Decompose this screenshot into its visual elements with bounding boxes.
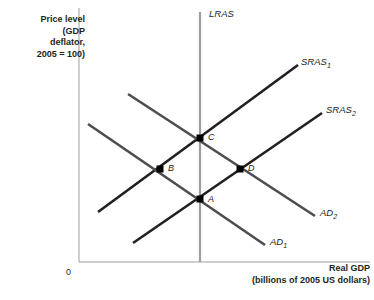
point-label-d: D	[248, 163, 255, 173]
y-axis-label: Price level (GDP deflator, 2005 = 100)	[37, 14, 85, 60]
curve-ad2	[128, 94, 315, 216]
curve-label-ad1-text: AD	[270, 236, 283, 247]
curve-label-sras2-sub: 2	[352, 110, 356, 117]
curve-label-ad2-sub: 2	[333, 213, 337, 220]
origin-label: 0	[66, 267, 71, 277]
equilibrium-point-b	[157, 166, 164, 173]
curve-label-ad1: AD1	[270, 236, 287, 249]
point-label-c: C	[208, 132, 215, 142]
curve-label-lras: LRAS	[209, 8, 234, 19]
curve-label-lras-text: LRAS	[209, 8, 234, 19]
curve-label-sras1-sub: 1	[327, 62, 331, 69]
aggregate-supply-demand-figure: Price level (GDP deflator, 2005 = 100) R…	[0, 0, 374, 300]
curve-label-ad1-sub: 1	[283, 242, 287, 249]
curve-label-ad2-text: AD	[320, 207, 333, 218]
equilibrium-point-c	[197, 135, 204, 142]
curve-label-sras1-text: SRAS	[301, 56, 327, 67]
equilibrium-point-a	[197, 196, 204, 203]
curve-label-sras1: SRAS1	[301, 56, 331, 69]
point-label-a: A	[208, 194, 214, 204]
curve-sras2	[133, 113, 322, 243]
point-label-b: B	[168, 163, 174, 173]
curve-label-ad2: AD2	[320, 207, 337, 220]
curve-ad1	[88, 124, 265, 245]
curves-group	[88, 12, 322, 262]
x-axis-label: Real GDP (billions of 2005 US dollars)	[233, 263, 370, 286]
curve-label-sras2-text: SRAS	[326, 104, 352, 115]
axes-group	[79, 8, 370, 262]
equilibrium-point-d	[237, 166, 244, 173]
curve-label-sras2: SRAS2	[326, 104, 356, 117]
